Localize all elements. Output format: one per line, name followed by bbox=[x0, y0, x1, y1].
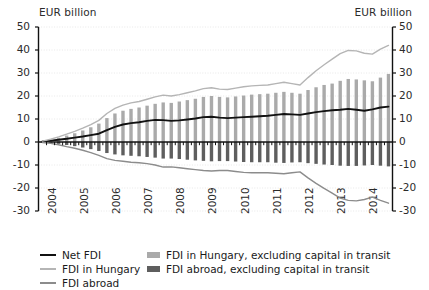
legend-label: FDI in Hungary, excluding capital in tra… bbox=[166, 249, 390, 261]
legend-item: FDI abroad bbox=[40, 277, 119, 289]
legend-item: Net FDI bbox=[40, 249, 101, 261]
legend-item: FDI in Hungary, excluding capital in tra… bbox=[147, 249, 390, 261]
legend-item: FDI abroad, excluding capital in transit bbox=[147, 263, 369, 275]
legend-label: FDI abroad bbox=[62, 277, 119, 289]
legend-line-swatch-icon bbox=[40, 282, 56, 284]
legend-item: FDI in Hungary bbox=[40, 263, 140, 275]
legend-line-swatch-icon bbox=[40, 254, 56, 256]
legend-box-swatch-icon bbox=[147, 252, 160, 258]
bars-fdi-in-hungary-excl-transit bbox=[41, 74, 390, 142]
fdi-chart: EUR billion EUR billion 50403020100-10-2… bbox=[0, 0, 429, 290]
legend-label: FDI abroad, excluding capital in transit bbox=[166, 263, 369, 275]
legend-label: Net FDI bbox=[62, 249, 101, 261]
bars-fdi-abroad-excl-transit bbox=[41, 142, 390, 166]
line-series bbox=[43, 45, 389, 203]
legend-label: FDI in Hungary bbox=[62, 263, 140, 275]
plot-area bbox=[0, 0, 429, 290]
legend-line-swatch-icon bbox=[40, 268, 56, 270]
legend-box-swatch-icon bbox=[147, 266, 160, 272]
